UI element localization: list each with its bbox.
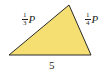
left-side-label: 1 3 P [22,12,35,27]
bottom-side-label: 5 [49,60,55,71]
fraction-one-third: 1 3 [22,12,28,27]
fraction-one-fourth: 1 4 [85,12,91,27]
variable-p: P [29,13,36,25]
right-side-label: 1 4 P [85,12,98,27]
denominator: 3 [23,20,27,27]
denominator: 4 [86,20,90,27]
variable-p: P [92,13,99,25]
